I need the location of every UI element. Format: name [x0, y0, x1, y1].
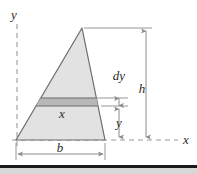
x-axis-label: x: [182, 132, 189, 147]
triangle-shape: [16, 28, 105, 140]
differential-strip: [10, 98, 115, 106]
page-bottom-light-band: [0, 168, 197, 174]
y-dimension-label: y: [114, 115, 122, 130]
triangle-strip-diagram: h dy y b x y x: [0, 0, 197, 174]
x-strip-width-label: x: [58, 106, 65, 121]
dy-dimension-label: dy: [113, 68, 126, 83]
y-axis-label: y: [9, 7, 17, 22]
b-dimension-label: b: [57, 140, 64, 155]
figure-container: h dy y b x y x: [0, 0, 197, 174]
h-dimension-label: h: [139, 81, 146, 96]
